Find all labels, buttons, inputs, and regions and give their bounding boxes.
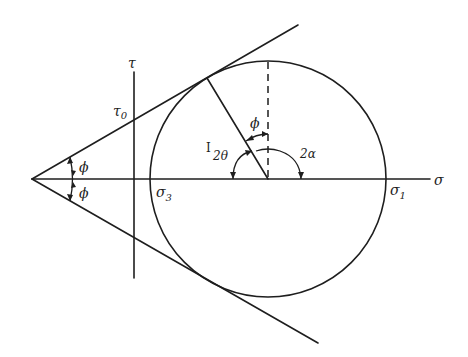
two-alpha-arc: [256, 149, 301, 179]
two-theta-arrowhead-top: [245, 150, 252, 156]
two-theta-label: 2θ: [212, 149, 229, 163]
phi-upper-label: ϕ: [79, 159, 89, 175]
two-theta-arc: [233, 151, 252, 179]
tau-axis-label: τ: [128, 55, 136, 71]
two-alpha-arrowhead: [298, 172, 304, 179]
tau0-label: τ0: [113, 103, 128, 121]
sigma1-label: σ1: [390, 182, 406, 201]
two-theta-tick: I: [206, 141, 211, 155]
mohr-coulomb-diagram: τ σ τ0 σ3 σ1 ϕ ϕ ϕ I 2θ 2α: [0, 0, 468, 357]
upper-failure-envelope: [32, 25, 298, 179]
sigma-axis-label: σ: [434, 172, 444, 188]
lower-failure-envelope: [32, 179, 318, 343]
sigma3-label: σ3: [156, 184, 172, 203]
two-theta-arrowhead-bottom: [230, 172, 236, 179]
phi-circle-label: ϕ: [250, 115, 260, 131]
phi-circle-arrowhead-right: [262, 131, 268, 137]
two-alpha-label: 2α: [299, 147, 316, 161]
phi-circle-arrowhead-left: [246, 135, 254, 141]
phi-lower-label: ϕ: [79, 185, 89, 201]
